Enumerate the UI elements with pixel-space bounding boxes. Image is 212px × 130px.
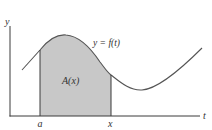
area-function-diagram: y t y = f(t) A(x) a x xyxy=(0,0,212,130)
lower-limit-label: a xyxy=(38,118,43,129)
curve-label: y = f(t) xyxy=(92,38,120,49)
upper-limit-label: x xyxy=(107,118,113,129)
area-label: A(x) xyxy=(61,75,80,87)
t-axis-label: t xyxy=(203,110,206,121)
y-axis-label: y xyxy=(4,16,10,27)
